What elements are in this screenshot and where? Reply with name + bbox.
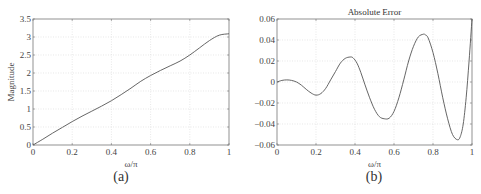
x-tick-label: 1 [470,147,475,157]
x-tick-label: 0 [275,147,280,157]
x-axis-label: ω/π [125,159,138,169]
x-tick-label: 0.8 [184,147,196,157]
chart-a: 00.20.40.60.8100.511.522.533.5ω/πMagnitu… [6,14,231,185]
y-tick-label: 0 [27,140,32,150]
y-tick-label: −0.06 [254,140,275,150]
plot-frame [33,19,229,145]
chart-title: Absolute Error [348,7,402,17]
y-tick-label: 1 [27,104,32,114]
x-tick-label: 0.2 [310,147,321,157]
grid [277,19,472,145]
x-tick-label: 1 [227,147,232,157]
x-tick-label: 0.4 [106,147,118,157]
chart-caption: (b) [366,169,383,185]
y-tick-label: 2.5 [20,50,32,60]
x-axis-label: ω/π [368,159,381,169]
x-tick-label: 0.4 [349,147,361,157]
y-tick-label: 3 [27,32,32,42]
data-line [277,19,472,140]
y-tick-label: 1.5 [20,86,32,96]
x-tick-label: 0.2 [67,147,78,157]
x-tick-label: 0.6 [388,147,400,157]
y-tick-label: 0.02 [259,56,275,66]
y-tick-label: 0 [271,77,276,87]
x-tick-label: 0 [31,147,36,157]
grid [33,19,229,145]
x-tick-label: 0.8 [427,147,439,157]
y-tick-label: 2 [27,68,32,78]
y-tick-label: 3.5 [20,14,32,24]
y-tick-label: −0.04 [254,119,275,129]
y-tick-label: 0.06 [259,14,275,24]
y-tick-label: 0.04 [259,35,275,45]
y-tick-label: −0.02 [254,98,275,108]
y-axis-label: Magnitude [6,63,16,102]
y-tick-label: 0.5 [20,122,32,132]
data-line [33,34,229,145]
chart-b: 00.20.40.60.81−0.06−0.04−0.0200.020.040.… [254,7,474,185]
chart-caption: (a) [113,169,129,185]
x-tick-label: 0.6 [145,147,157,157]
figure: 00.20.40.60.8100.511.522.533.5ω/πMagnitu… [0,0,481,194]
